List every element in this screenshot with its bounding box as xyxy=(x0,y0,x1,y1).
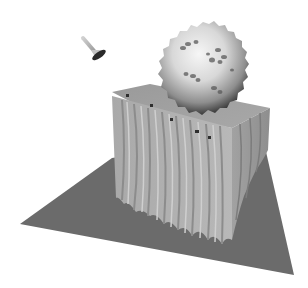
render-scene xyxy=(0,0,308,288)
spotlight-gizmo-icon xyxy=(83,38,107,62)
